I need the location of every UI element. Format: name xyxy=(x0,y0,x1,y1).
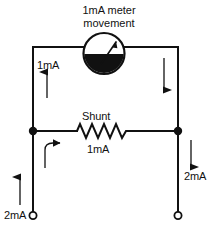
label-input-terminal-current: 2mA xyxy=(4,209,26,221)
diagram-title-line1: 1mA meter xyxy=(57,4,161,17)
label-shunt-name: Shunt xyxy=(82,110,110,122)
label-left-branch-current: 1mA xyxy=(37,59,59,71)
terminals xyxy=(29,212,181,219)
output-terminal xyxy=(174,212,181,219)
meter-movement xyxy=(84,33,125,74)
right-junction-dot xyxy=(174,127,182,135)
shunt-current-arrow xyxy=(45,143,60,168)
circuit-diagram: 1mA meter movement 1mA Shunt 1mA 2mA 2mA xyxy=(0,0,219,233)
shunt-resistor xyxy=(77,124,129,138)
input-terminal xyxy=(29,212,36,219)
diagram-title: 1mA meter movement xyxy=(57,4,161,29)
label-shunt-current: 1mA xyxy=(87,143,109,155)
diagram-title-line2: movement xyxy=(57,17,161,30)
label-output-terminal-current: 2mA xyxy=(184,170,206,182)
left-junction-dot xyxy=(29,127,37,135)
